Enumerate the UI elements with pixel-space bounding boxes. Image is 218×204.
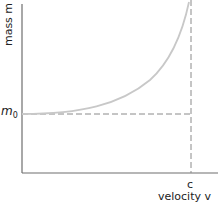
y-axis-label: mass m bbox=[2, 3, 15, 47]
m0-main: m bbox=[1, 104, 13, 118]
x-axis-label: velocity v bbox=[158, 190, 211, 203]
relativistic-mass-chart bbox=[0, 0, 218, 204]
m0-tick-label: m0 bbox=[1, 104, 18, 120]
m0-subscript: 0 bbox=[13, 111, 18, 120]
mass-curve bbox=[22, 2, 189, 114]
